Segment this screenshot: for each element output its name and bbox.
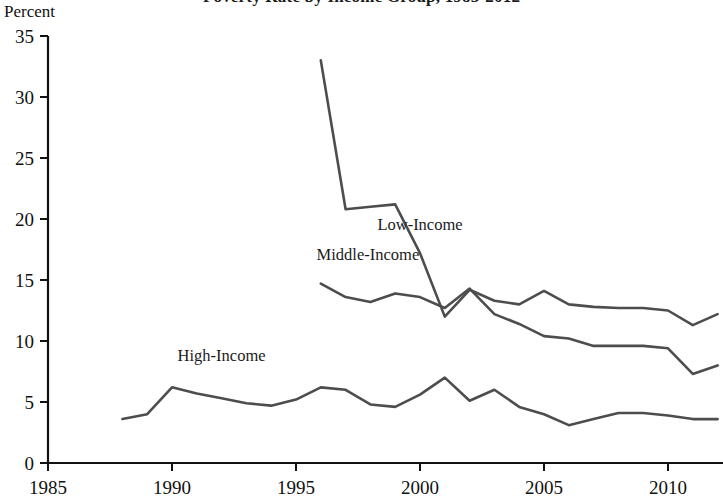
series-line-high-income [122,378,717,426]
x-tick-label: 1995 [277,477,315,498]
y-tick-label: 20 [15,209,34,230]
x-tick-label: 2000 [401,477,439,498]
y-axis: 05101520253035 [15,26,48,474]
x-axis: 198519901995200020052010 [29,463,723,498]
y-tick-label: 0 [25,453,35,474]
series-line-low-income [321,60,718,325]
x-tick-label: 1990 [153,477,191,498]
x-tick-label: 1985 [29,477,67,498]
series-labels: Low-IncomeMiddle-IncomeHigh-Income [178,215,463,365]
y-tick-label: 5 [25,392,35,413]
series-label-high-income: High-Income [178,346,266,365]
series-label-middle-income: Middle-Income [317,245,420,264]
chart-container: Poverty Rate by Income Group, 1985-2012 … [0,0,723,504]
y-tick-label: 35 [15,26,34,47]
series-label-low-income: Low-Income [377,215,462,234]
y-tick-label: 10 [15,331,34,352]
series-line-middle-income [321,284,718,374]
line-chart-plot: 05101520253035 198519901995200020052010 … [0,0,723,504]
x-tick-label: 2005 [525,477,563,498]
y-tick-label: 30 [15,87,34,108]
series-lines [122,60,717,425]
y-tick-label: 25 [15,148,34,169]
x-tick-label: 2010 [649,477,687,498]
y-tick-label: 15 [15,270,34,291]
